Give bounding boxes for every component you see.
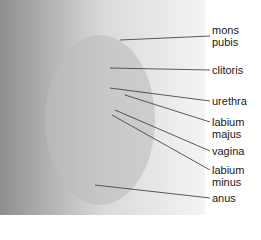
label-labium-majus: labium majus — [212, 116, 244, 140]
label-urethra: urethra — [212, 95, 247, 107]
label-text: pubis — [212, 36, 239, 48]
label-text: minus — [212, 176, 244, 188]
label-mons-pubis: mons pubis — [212, 24, 239, 48]
label-vagina: vagina — [212, 145, 244, 157]
label-text: urethra — [212, 95, 247, 107]
label-text: vagina — [212, 145, 244, 157]
label-text: anus — [212, 192, 236, 204]
label-text: mons — [212, 24, 239, 36]
label-text: labium — [212, 116, 244, 128]
label-text: labium — [212, 164, 244, 176]
label-text: clitoris — [212, 64, 243, 76]
label-labium-minus: labium minus — [212, 164, 244, 188]
label-clitoris: clitoris — [212, 64, 243, 76]
label-anus: anus — [212, 192, 236, 204]
label-text: majus — [212, 128, 244, 140]
